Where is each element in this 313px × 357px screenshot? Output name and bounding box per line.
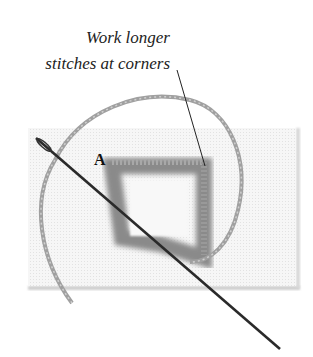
point-label-a: A	[94, 151, 106, 169]
caption: Work longer stitches at corners	[45, 28, 170, 74]
embroidery-illustration: Work longer stitches at corners A	[0, 0, 313, 357]
caption-line-2: stitches at corners	[45, 54, 170, 74]
caption-line-1: Work longer	[45, 28, 170, 48]
